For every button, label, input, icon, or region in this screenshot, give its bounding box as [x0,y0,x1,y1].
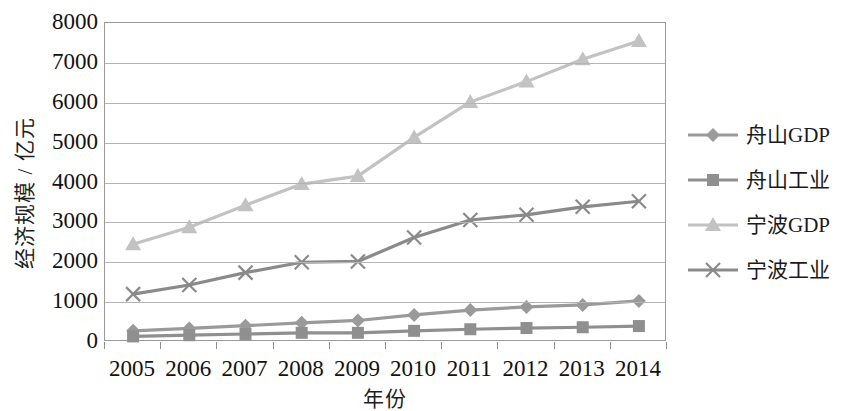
legend-label: 舟山GDP [740,123,830,147]
series-square [127,320,645,342]
y-tick-label: 0 [6,329,98,352]
data-point-marker [464,323,476,335]
data-point-marker [351,313,365,327]
x-tick-label: 2007 [213,355,277,382]
gridline [105,183,665,184]
data-point-marker [352,327,364,339]
x-tick-mark [666,342,667,349]
legend-marker-triangle-icon [686,213,740,237]
y-tick-label: 4000 [6,170,98,193]
x-tick-mark [497,342,498,349]
data-point-marker [406,129,422,143]
data-point-marker [576,298,590,312]
x-axis-ticks [104,342,666,350]
plot-area [104,22,666,341]
x-tick-label: 2006 [156,355,220,382]
y-tick-label: 6000 [6,90,98,113]
legend-item[interactable]: 舟山GDP [686,112,842,157]
x-tick-label: 2012 [494,355,558,382]
data-point-marker [633,320,645,332]
data-point-marker [408,325,420,337]
x-tick-mark [329,342,330,349]
x-axis-title: 年份 [104,382,666,411]
y-tick-label: 3000 [6,209,98,232]
legend-marker-square-icon [686,168,740,192]
legend-item[interactable]: 宁波工业 [686,247,842,292]
data-point-marker [577,321,589,333]
gridline [105,222,665,223]
x-tick-label: 2009 [325,355,389,382]
data-point-marker [350,168,366,182]
x-tick-mark [160,342,161,349]
x-tick-label: 2010 [381,355,445,382]
data-point-marker [631,33,647,47]
line-chart-figure: 经济规模 / 亿元 010002000300040005000600070008… [0,0,842,411]
data-point-marker [296,327,308,339]
x-tick-mark [104,342,105,349]
legend-label: 宁波工业 [740,258,830,282]
x-tick-mark [385,342,386,349]
y-tick-label: 7000 [6,50,98,73]
data-point-marker [632,294,646,308]
data-point-marker [521,322,533,334]
x-tick-label: 2013 [550,355,614,382]
x-tick-mark [441,342,442,349]
series-line [133,201,639,294]
y-tick-label: 2000 [6,249,98,272]
x-tick-label: 2005 [100,355,164,382]
x-tick-mark [216,342,217,349]
x-tick-mark [554,342,555,349]
gridline [105,262,665,263]
x-axis-tick-labels: 2005200620072008200920102011201220132014 [104,355,666,385]
legend-marker-x-icon [686,258,740,282]
data-point-marker [183,329,195,341]
y-axis-tick-labels: 010002000300040005000600070008000 [6,0,98,411]
legend-marker-diamond-icon [686,123,740,147]
series-triangle [125,33,647,250]
data-point-marker [240,328,252,340]
x-tick-mark [273,342,274,349]
gridline [105,63,665,64]
y-tick-label: 5000 [6,130,98,153]
y-tick-label: 8000 [6,10,98,33]
gridline [105,302,665,303]
x-tick-label: 2011 [437,355,501,382]
data-point-marker [127,330,139,342]
legend-item[interactable]: 舟山工业 [686,157,842,202]
legend-label: 舟山工业 [740,168,830,192]
x-tick-label: 2014 [606,355,670,382]
legend-label: 宁波GDP [740,213,830,237]
legend-item[interactable]: 宁波GDP [686,202,842,247]
series-x [126,194,646,301]
gridline [105,143,665,144]
chart-legend: 舟山GDP舟山工业宁波GDP宁波工业 [686,112,842,292]
data-point-marker [463,303,477,317]
x-tick-mark [610,342,611,349]
y-tick-label: 1000 [6,289,98,312]
gridline [105,103,665,104]
data-point-marker [407,308,421,322]
x-tick-label: 2008 [269,355,333,382]
